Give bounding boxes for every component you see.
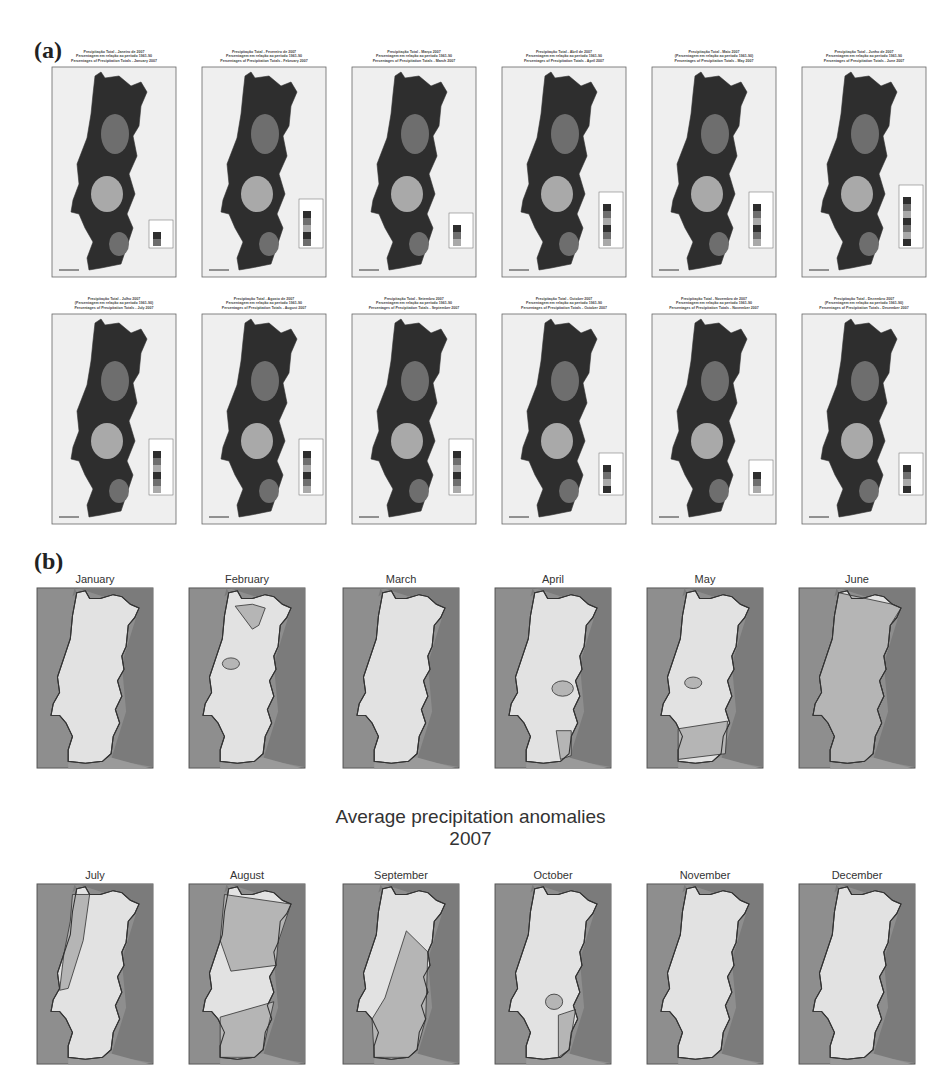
map-title: Precipitação Total - Março 2007Percentag…: [340, 50, 488, 64]
precip-map-september: Precipitação Total - Setembro 2007Percen…: [340, 297, 488, 533]
map-title-line: Percentages of Precipitation Totals - Ju…: [40, 306, 188, 310]
anomaly-map-december: December: [798, 868, 916, 1065]
anomaly-map-title: July: [36, 868, 154, 883]
anomaly-map-title: September: [342, 868, 460, 883]
map-plot: [340, 64, 488, 286]
map-plot: [640, 64, 788, 286]
anomaly-map-plot: [342, 587, 460, 769]
panel-b-label: (b): [34, 548, 63, 575]
anomaly-map-plot: [342, 883, 460, 1065]
anomaly-map-title: August: [188, 868, 306, 883]
map-title-line: Percentages of Precipitation Totals - Ja…: [40, 59, 188, 63]
precip-map-january: Precipitação Total - Janeiro de 2007Perc…: [40, 50, 188, 286]
anomaly-map-title: February: [188, 572, 306, 587]
precip-map-october: Precipitação Total - October 2007Percent…: [490, 297, 638, 533]
anomaly-map-october: October: [494, 868, 612, 1065]
map-title-line: Percentages of Precipitation Totals - Au…: [190, 306, 338, 310]
map-plot: [340, 311, 488, 533]
map-title-line: Percentages of Precipitation Totals - Se…: [340, 306, 488, 310]
map-plot: [490, 311, 638, 533]
anomaly-map-plot: [494, 883, 612, 1065]
anomaly-map-august: August: [188, 868, 306, 1065]
anomaly-map-title: October: [494, 868, 612, 883]
precip-map-december: Precipitação Total - Dezembro 2007(Perce…: [790, 297, 938, 533]
precip-map-february: Precipitação Total - Fevereiro de 2007Pe…: [190, 50, 338, 286]
map-title: Precipitação Total - Maio 2007(Percentag…: [640, 50, 788, 64]
anomaly-map-january: January: [36, 572, 154, 769]
figure-title: Average precipitation anomalies 2007: [0, 806, 941, 850]
anomaly-map-april: April: [494, 572, 612, 769]
map-title-line: Percentages of Precipitation Totals - Ju…: [790, 59, 938, 63]
precip-map-november: Precipitação Total - Novembro de 2007Per…: [640, 297, 788, 533]
anomaly-map-november: November: [646, 868, 764, 1065]
map-plot: [40, 311, 188, 533]
map-title: Precipitação Total - Janeiro de 2007Perc…: [40, 50, 188, 64]
map-title-line: Percentages of Precipitation Totals - Ap…: [490, 59, 638, 63]
map-title-line: Percentages of Precipitation Totals - Ma…: [340, 59, 488, 63]
map-title: Precipitação Total - October 2007Percent…: [490, 297, 638, 311]
anomaly-map-plot: [798, 587, 916, 769]
anomaly-map-plot: [36, 883, 154, 1065]
map-title: Precipitação Total - Dezembro 2007(Perce…: [790, 297, 938, 311]
anomaly-map-june: June: [798, 572, 916, 769]
anomaly-map-title: May: [646, 572, 764, 587]
anomaly-map-plot: [36, 587, 154, 769]
precip-map-march: Precipitação Total - Março 2007Percentag…: [340, 50, 488, 286]
map-title: Precipitação Total - Fevereiro de 2007Pe…: [190, 50, 338, 64]
anomaly-map-plot: [494, 587, 612, 769]
anomaly-map-plot: [798, 883, 916, 1065]
anomaly-map-title: April: [494, 572, 612, 587]
map-plot: [490, 64, 638, 286]
anomaly-map-title: December: [798, 868, 916, 883]
precip-map-july: Precipitação Total - Julho 2007(Percenta…: [40, 297, 188, 533]
map-plot: [640, 311, 788, 533]
map-plot: [790, 64, 938, 286]
anomaly-map-february: February: [188, 572, 306, 769]
map-plot: [190, 64, 338, 286]
map-title: Precipitação Total - Julho 2007(Percenta…: [40, 297, 188, 311]
anomaly-map-title: January: [36, 572, 154, 587]
anomaly-map-title: June: [798, 572, 916, 587]
anomaly-map-plot: [188, 587, 306, 769]
map-title: Precipitação Total - Setembro 2007Percen…: [340, 297, 488, 311]
anomaly-map-title: March: [342, 572, 460, 587]
precip-map-august: Precipitação Total - Agosto de 2007Perce…: [190, 297, 338, 533]
map-title-line: Percentages of Precipitation Totals - Fe…: [190, 59, 338, 63]
anomaly-map-september: September: [342, 868, 460, 1065]
precip-map-may: Precipitação Total - Maio 2007(Percentag…: [640, 50, 788, 286]
map-title-line: Percentages of Precipitation Totals - Oc…: [490, 306, 638, 310]
precip-map-april: Precipitação Total - Abril de 2007Percen…: [490, 50, 638, 286]
map-title: Precipitação Total - Novembro de 2007Per…: [640, 297, 788, 311]
precip-map-june: Precipitação Total - Junho de 2007Percen…: [790, 50, 938, 286]
anomaly-map-plot: [646, 587, 764, 769]
map-title-line: Percentages of Precipitation Totals - De…: [790, 306, 938, 310]
map-title-line: Percentages of Precipitation Totals - No…: [640, 306, 788, 310]
anomaly-map-plot: [646, 883, 764, 1065]
map-title: Precipitação Total - Abril de 2007Percen…: [490, 50, 638, 64]
anomaly-map-july: July: [36, 868, 154, 1065]
figure-title-line2: 2007: [0, 828, 941, 850]
anomaly-map-title: November: [646, 868, 764, 883]
map-plot: [190, 311, 338, 533]
anomaly-map-may: May: [646, 572, 764, 769]
map-title-line: Percentages of Precipitation Totals - Ma…: [640, 59, 788, 63]
map-plot: [40, 64, 188, 286]
figure-title-line1: Average precipitation anomalies: [0, 806, 941, 828]
map-title: Precipitação Total - Agosto de 2007Perce…: [190, 297, 338, 311]
map-plot: [790, 311, 938, 533]
anomaly-map-plot: [188, 883, 306, 1065]
map-title: Precipitação Total - Junho de 2007Percen…: [790, 50, 938, 64]
anomaly-map-march: March: [342, 572, 460, 769]
